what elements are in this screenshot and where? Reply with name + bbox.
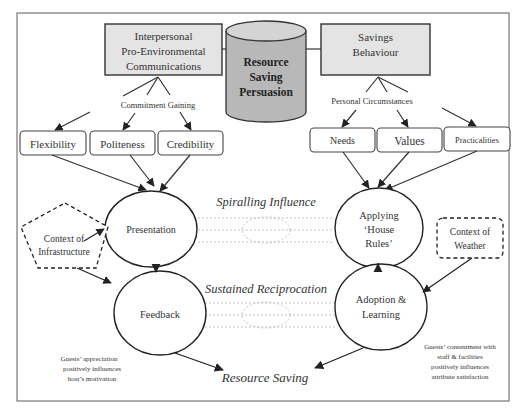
svg-text:attribute satisfaction: attribute satisfaction [432, 373, 489, 381]
interpersonal-line-3: Communications [126, 60, 201, 72]
svg-text:Credibility: Credibility [167, 138, 215, 150]
context-weather-box: Context of Weather [437, 218, 503, 258]
interpersonal-communications-box: Interpersonal Pro-Environmental Communic… [105, 24, 222, 75]
applying-house-rules-ellipse: Applying ‘House Rules’ [335, 188, 423, 268]
svg-text:Infrastructure: Infrastructure [38, 247, 90, 257]
interpersonal-line-1: Interpersonal [134, 30, 192, 42]
spiralling-influence-label: Spiralling Influence [216, 195, 316, 209]
commitment-gaining-label: Commitment Gaining [121, 100, 196, 110]
personal-circumstances-label: Personal Circumstances [331, 96, 412, 106]
savings-line-2: Behaviour [353, 46, 399, 58]
svg-text:Learning: Learning [362, 309, 401, 320]
svg-text:Flexibility: Flexibility [30, 138, 76, 150]
svg-text:Context of: Context of [450, 227, 491, 237]
factor-values: Values [377, 128, 442, 152]
persuasion-diagram: Interpersonal Pro-Environmental Communic… [0, 0, 529, 416]
svg-text:Practicalities: Practicalities [455, 135, 499, 145]
factor-credibility: Credibility [158, 131, 223, 155]
svg-text:Politeness: Politeness [100, 138, 145, 150]
adoption-learning-ellipse: Adoption & Learning [335, 264, 427, 350]
svg-text:Adoption &: Adoption & [356, 294, 406, 305]
resource-saving-outcome: Resource Saving [221, 370, 309, 385]
resource-saving-persuasion-cylinder: Resource Saving Persuasion [226, 21, 306, 122]
savings-line-1: Savings [358, 31, 393, 43]
feedback-ellipse: Feedback [114, 271, 206, 355]
svg-text:positively influences: positively influences [431, 363, 489, 371]
svg-text:Needs: Needs [330, 135, 355, 146]
svg-text:positively influences: positively influences [63, 365, 121, 373]
factor-politeness: Politeness [90, 131, 155, 155]
interpersonal-line-2: Pro-Environmental [121, 45, 205, 57]
svg-text:Presentation: Presentation [126, 224, 175, 235]
svg-text:Guests’ contentment with: Guests’ contentment with [424, 343, 496, 351]
presentation-ellipse: Presentation [105, 191, 197, 267]
svg-text:Feedback: Feedback [140, 309, 181, 320]
cylinder-line-3: Persuasion [239, 86, 293, 98]
factor-flexibility: Flexibility [20, 131, 86, 155]
svg-text:Context of: Context of [44, 234, 85, 244]
factor-needs: Needs [310, 128, 375, 152]
cylinder-line-2: Saving [249, 71, 282, 84]
factor-practicalities: Practicalities [444, 127, 510, 151]
svg-text:‘House: ‘House [364, 224, 395, 235]
svg-text:Weather: Weather [454, 241, 486, 251]
svg-text:Guests’ appreciation: Guests’ appreciation [60, 355, 118, 363]
sustained-reciprocation-label: Sustained Reciprocation [205, 282, 327, 296]
svg-text:Applying: Applying [359, 210, 399, 221]
cylinder-line-1: Resource [243, 56, 288, 68]
svg-text:Values: Values [394, 135, 425, 147]
svg-text:Rules’: Rules’ [365, 238, 392, 249]
left-note: Guests’ appreciation positively influenc… [60, 355, 121, 383]
svg-text:staff & facilities: staff & facilities [437, 353, 483, 361]
savings-behaviour-box: Savings Behaviour [321, 24, 430, 75]
svg-text:host’s motivation: host’s motivation [68, 375, 117, 383]
